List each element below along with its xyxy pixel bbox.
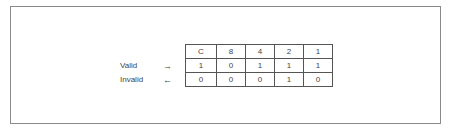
valid-cell-4: 1 [246,59,275,73]
invalid-cell-4: 0 [246,73,275,87]
header-row: C 8 4 2 1 [186,45,333,59]
header-cell-c: C [186,45,217,59]
invalid-row: 0 0 0 1 0 [186,73,333,87]
arrow-right-icon: → [163,61,172,71]
header-cell-1: 1 [304,45,333,59]
valid-cell-1: 1 [304,59,333,73]
valid-row: 1 0 1 1 1 [186,59,333,73]
header-cell-2: 2 [275,45,304,59]
row-label-valid: Valid [120,61,137,71]
row-label-invalid: Invalid [120,75,143,85]
header-cell-4: 4 [246,45,275,59]
invalid-cell-c: 0 [186,73,217,87]
header-cell-8: 8 [217,45,246,59]
arrow-left-icon: ← [163,75,172,85]
invalid-cell-2: 1 [275,73,304,87]
invalid-cell-1: 0 [304,73,333,87]
valid-cell-c: 1 [186,59,217,73]
bit-table: C 8 4 2 1 1 0 1 1 1 0 0 0 1 0 [185,44,333,87]
valid-cell-8: 0 [217,59,246,73]
valid-cell-2: 1 [275,59,304,73]
invalid-cell-8: 0 [217,73,246,87]
